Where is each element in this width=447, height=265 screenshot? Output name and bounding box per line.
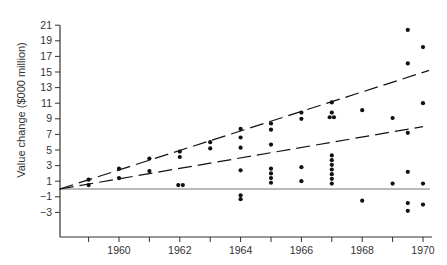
data-point [360,108,364,112]
data-point [330,158,334,162]
data-point [269,142,273,146]
y-tick-label: 17 [40,50,52,62]
data-point [330,181,334,185]
data-point [421,181,425,185]
data-point [421,203,425,207]
data-point [147,169,151,173]
data-point [360,199,364,203]
data-point [330,100,334,104]
data-point [269,171,273,175]
data-point [87,178,91,182]
data-point [208,140,212,144]
y-tick-label: 15 [40,66,52,78]
data-point [239,135,243,139]
data-point [269,181,273,185]
data-point [117,176,121,180]
data-point [181,183,185,187]
y-tick-label: 13 [40,81,52,93]
y-tick-label: 5 [46,144,52,156]
data-point [269,176,273,180]
data-point [406,28,410,32]
y-axis-label: Value change ($000 million) [15,42,27,178]
data-point [178,149,182,153]
data-point [208,146,212,150]
x-tick-label: 1968 [351,244,375,256]
y-tick-label: 1 [46,175,52,187]
data-point [147,156,151,160]
data-point [269,128,273,132]
data-point [269,167,273,171]
data-point [406,61,410,65]
data-point [330,167,334,171]
data-point [406,131,410,135]
x-tick-label: 1962 [168,244,192,256]
data-point [330,153,334,157]
data-point [391,116,395,120]
axes: 21191715131197531−1−31960196219641966196… [40,19,435,256]
data-point [330,172,334,176]
y-tick-label: 9 [46,112,52,124]
data-points [87,28,426,213]
x-tick-label: 1966 [290,244,314,256]
data-point [269,121,273,125]
data-point [328,115,332,119]
data-point [421,45,425,49]
y-tick-label: −1 [40,190,52,202]
y-tick-label: 7 [46,128,52,140]
trend-lines [60,70,429,189]
data-point [239,168,243,172]
data-point [299,165,303,169]
data-point [421,101,425,105]
y-tick-label: 11 [41,97,52,109]
data-point [178,155,182,159]
data-point [391,181,395,185]
x-tick-label: 1960 [107,244,131,256]
data-point [406,209,410,213]
data-point [406,201,410,205]
data-point [406,170,410,174]
data-point [299,110,303,114]
upper-trend-line [60,70,429,189]
data-point [299,179,303,183]
data-point [87,183,91,187]
x-tick-label: 1964 [229,244,253,256]
x-tick-label: 1970 [411,244,435,256]
data-point [330,110,334,114]
data-point [239,127,243,131]
data-point [330,177,334,181]
data-point [330,163,334,167]
y-tick-label: −3 [40,206,52,218]
data-point [239,193,243,197]
data-point [299,117,303,121]
y-tick-label: 21 [40,19,52,31]
data-point [239,197,243,201]
data-point [176,183,180,187]
y-axis-title: Value change ($000 million) [15,42,27,178]
data-point [239,146,243,150]
data-point [117,167,121,171]
y-tick-label: 3 [46,159,52,171]
y-tick-label: 19 [40,34,52,46]
scatter-chart: Value change ($000 million) 211917151311… [0,0,447,265]
data-point [332,115,336,119]
